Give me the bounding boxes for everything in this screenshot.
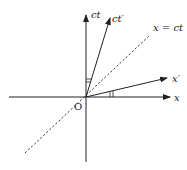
label-x-prime: x′ xyxy=(172,73,181,84)
label-x: x xyxy=(174,92,180,103)
spacetime-diagram: ct ct′ x = ct x′ x O xyxy=(0,0,187,170)
label-origin: O xyxy=(74,101,82,112)
label-light-line: x = ct xyxy=(153,22,184,33)
x-prime-axis xyxy=(86,78,167,97)
light-line xyxy=(25,35,150,153)
label-ct: ct xyxy=(91,9,102,20)
label-ct-prime: ct′ xyxy=(112,13,125,24)
ct-prime-axis xyxy=(86,18,110,97)
